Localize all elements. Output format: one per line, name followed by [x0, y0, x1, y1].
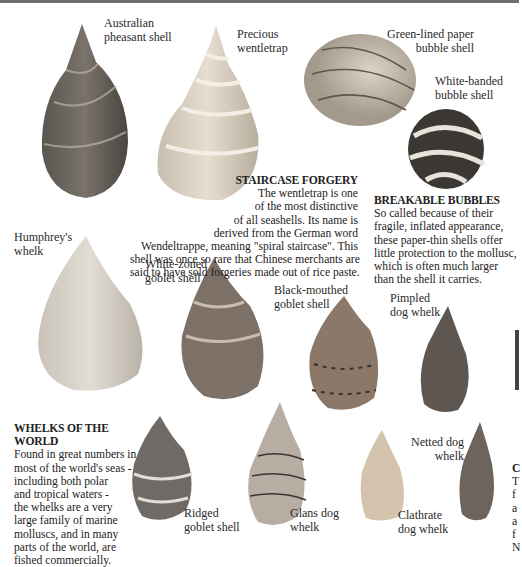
body-line: the whelks are a very — [14, 501, 154, 514]
body-line: So called because of their — [374, 207, 519, 220]
australian-pheasant-shell-image — [36, 22, 136, 200]
label-line: Black-mouthed — [274, 283, 348, 297]
body-line: T — [512, 475, 522, 488]
label-clathrate-dog-whelk: Clathrate dog whelk — [398, 508, 448, 536]
body-line: said to have sold forgeries made out of … — [130, 266, 358, 279]
label-line: dog whelk — [390, 305, 440, 319]
body-line: N — [512, 541, 522, 554]
label-pimpled-dog-whelk: Pimpled dog whelk — [390, 291, 440, 319]
staircase-forgery-block: STAIRCASE FORGERY The wentletrap is one … — [130, 174, 358, 280]
label-line: Netted dog — [400, 435, 464, 449]
label-line: Australian — [104, 16, 172, 30]
breakable-bubbles-block: BREAKABLE BUBBLES So called because of t… — [374, 194, 519, 286]
body-line: little protection to the mollusc, — [374, 247, 519, 260]
label-line: Precious — [237, 27, 288, 41]
body-line: fragile, inflated appearance, — [374, 220, 519, 233]
body-line: molluscs, and in many — [14, 528, 154, 541]
white-banded-bubble-shell-image — [406, 108, 486, 190]
body-line: parts of the world, are — [14, 541, 154, 554]
body-line: of the most distinctive — [130, 200, 358, 213]
breakable-bubbles-heading: BREAKABLE BUBBLES — [374, 194, 519, 207]
label-australian-pheasant-shell: Australian pheasant shell — [104, 16, 172, 44]
label-black-mouthed-goblet-shell: Black-mouthed goblet shell — [274, 283, 348, 311]
label-line: pheasant shell — [104, 30, 172, 44]
label-line: Humphrey's — [14, 230, 72, 244]
label-line: Green-lined paper — [380, 27, 474, 41]
body-line: shell was once so rare that Chinese merc… — [130, 253, 358, 266]
body-line: a — [512, 515, 522, 528]
label-line: dog whelk — [398, 522, 448, 536]
label-green-lined-paper-bubble-shell: Green-lined paper bubble shell — [380, 27, 474, 55]
body-line: these paper-thin shells offer — [374, 234, 519, 247]
body-line: and tropical waters - — [14, 488, 154, 501]
label-ridged-goblet-shell: Ridged goblet shell — [184, 506, 240, 534]
body-line: than the shell it carries. — [374, 273, 519, 286]
body-line: a — [512, 502, 522, 515]
body-line: which is often much larger — [374, 260, 519, 273]
label-netted-dog-whelk: Netted dog whelk — [400, 435, 464, 463]
body-line: including both polar — [14, 475, 154, 488]
adjacent-page-edge — [515, 330, 519, 390]
whelks-heading: WHELKS OF THE WORLD — [14, 422, 154, 448]
label-line: Pimpled — [390, 291, 440, 305]
black-mouthed-goblet-shell-image — [304, 294, 382, 414]
label-line: Glans dog — [290, 506, 339, 520]
label-line: whelk — [14, 244, 72, 258]
body-line: derived from the German word — [130, 227, 358, 240]
body-line: large family of marine — [14, 514, 154, 527]
label-glans-dog-whelk: Glans dog whelk — [290, 506, 339, 534]
whelks-of-the-world-block: WHELKS OF THE WORLD Found in great numbe… — [14, 422, 154, 567]
body-line: The wentletrap is one — [130, 187, 358, 200]
pimpled-dog-whelk-image — [414, 304, 472, 416]
label-humphreys-whelk: Humphrey's whelk — [14, 230, 72, 258]
label-line: bubble shell — [435, 88, 503, 102]
body-line: Wendeltrappe, meaning "spiral staircase"… — [130, 240, 358, 253]
body-line: fished commercially. — [14, 554, 154, 567]
body-line: f — [512, 528, 522, 541]
label-line: whelk — [400, 449, 464, 463]
label-line: White-banded — [435, 74, 503, 88]
top-border — [0, 0, 519, 3]
body-line: f — [512, 488, 522, 501]
staircase-forgery-heading: STAIRCASE FORGERY — [130, 174, 358, 187]
body-line: Found in great numbers in — [14, 448, 154, 461]
body-line: of all seashells. Its name is — [130, 214, 358, 227]
label-line: whelk — [290, 520, 339, 534]
label-line: Clathrate — [398, 508, 448, 522]
label-precious-wentletrap: Precious wentletrap — [237, 27, 288, 55]
label-line: bubble shell — [380, 41, 474, 55]
label-line: goblet shell — [184, 520, 240, 534]
label-line: wentletrap — [237, 41, 288, 55]
label-line: goblet shell — [274, 297, 348, 311]
cutoff-column-text: C T f a a f N — [512, 462, 522, 554]
cutoff-heading: C — [512, 462, 522, 475]
label-line: Ridged — [184, 506, 240, 520]
label-white-banded-bubble-shell: White-banded bubble shell — [435, 74, 503, 102]
body-line: most of the world's seas - — [14, 462, 154, 475]
